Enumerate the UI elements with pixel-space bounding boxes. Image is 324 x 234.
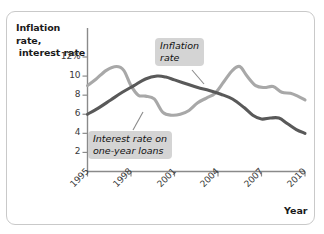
annotation-interest-line1: Interest rate on — [93, 133, 167, 145]
annotation-inflation-rate: Inflation rate — [155, 38, 204, 66]
y-axis-tick-label: 12% — [49, 51, 81, 61]
chart-figure: Inflation rate, interest rate Year Infla… — [0, 0, 324, 234]
series-group — [88, 66, 306, 133]
y-axis-tick-label: 2 — [49, 146, 81, 156]
y-axis-tick-label: 8 — [49, 89, 81, 99]
series-line-inflation-rate — [88, 66, 306, 115]
y-axis-tick-label: 6 — [49, 108, 81, 118]
y-axis-tick-label: 4 — [49, 127, 81, 137]
annotation-inflation-line1: Inflation — [160, 40, 199, 52]
leader-line-interest — [133, 112, 143, 130]
leader-line-inflation — [192, 70, 204, 84]
annotation-interest-line2: one-year loans — [93, 145, 167, 157]
y-axis-tick-label: 10 — [49, 70, 81, 80]
annotation-interest-rate: Interest rate on one-year loans — [88, 131, 172, 159]
annotation-inflation-line2: rate — [160, 52, 199, 64]
y-axis-tick-marks — [83, 57, 88, 152]
